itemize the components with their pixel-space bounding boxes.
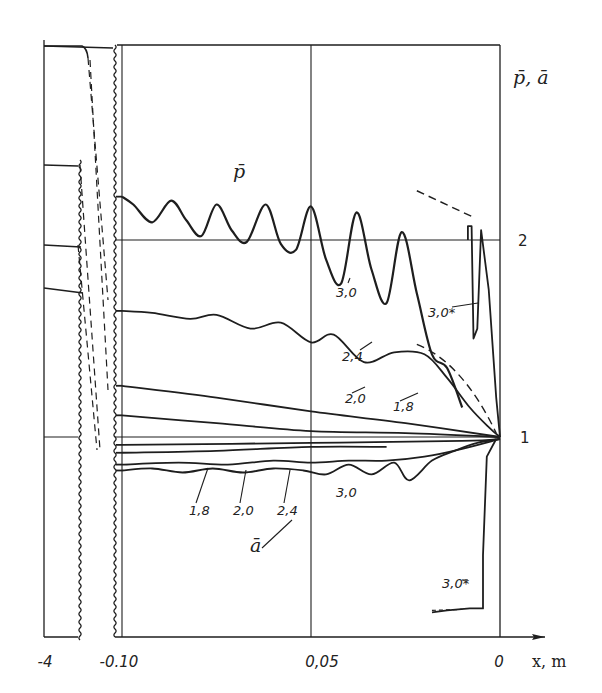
axis-break-left: [79, 160, 81, 640]
y-axis-label: p̄, ā: [513, 66, 549, 88]
x-axis-label: x, m: [532, 652, 566, 671]
dashed-transition-line: [88, 58, 108, 300]
inset-level-line: [44, 165, 78, 166]
series-line-p-3-0star: [468, 226, 500, 437]
dashed-envelope-upper: [417, 191, 472, 217]
chart: -4 -0.10 0,05 0 x, m p̄, ā 2 1 p̄ ā 3,0 …: [0, 0, 602, 693]
label-leader-line: [452, 303, 478, 307]
label-a-3-0-star: 3,0*: [442, 576, 470, 591]
dashed-transition-line: [90, 60, 108, 390]
label-leader-line: [348, 278, 350, 283]
p-group-label: p̄: [233, 160, 245, 182]
series-line-a-2-0: [122, 447, 387, 453]
label-leader-line: [196, 468, 208, 503]
label-p-3-0-star: 3,0*: [428, 305, 456, 320]
label-leader-line: [240, 470, 246, 503]
label-a-3-0: 3,0: [336, 485, 357, 500]
series-line-p-3-0: [122, 197, 462, 408]
label-leader-line: [284, 470, 290, 503]
curves: [116, 191, 500, 613]
label-p-2-0: 2,0: [345, 391, 366, 406]
inset-level-line: [44, 245, 81, 247]
label-p-1-8: 1,8: [393, 399, 414, 414]
chart-frame: [114, 45, 545, 640]
label-a-2-4: 2,4: [277, 503, 298, 518]
x-tick-label: -4: [38, 653, 53, 671]
axis-break-right: [114, 45, 116, 637]
x-tick-label: 0,05: [305, 653, 338, 671]
label-p-3-0: 3,0: [336, 285, 357, 300]
label-p-2-4: 2,4: [342, 349, 363, 364]
label-a-2-0: 2,0: [233, 503, 254, 518]
dashed-transition-line: [80, 165, 100, 450]
inset-level-line: [44, 288, 83, 293]
inset-panel-x-minus-4: [44, 40, 113, 640]
text-labels: -4 -0.10 0,05 0 x, m p̄, ā 2 1 p̄ ā 3,0 …: [38, 66, 567, 671]
a-group-label: ā: [250, 534, 261, 556]
label-leader-line: [262, 520, 292, 548]
label-leader-lines: [196, 278, 478, 580]
x-tick-label: -0.10: [100, 653, 139, 671]
y-tick-label: 1: [520, 429, 530, 447]
y-tick-label: 2: [518, 232, 528, 250]
label-a-1-8: 1,8: [189, 503, 210, 518]
x-tick-label: 0: [494, 653, 504, 671]
